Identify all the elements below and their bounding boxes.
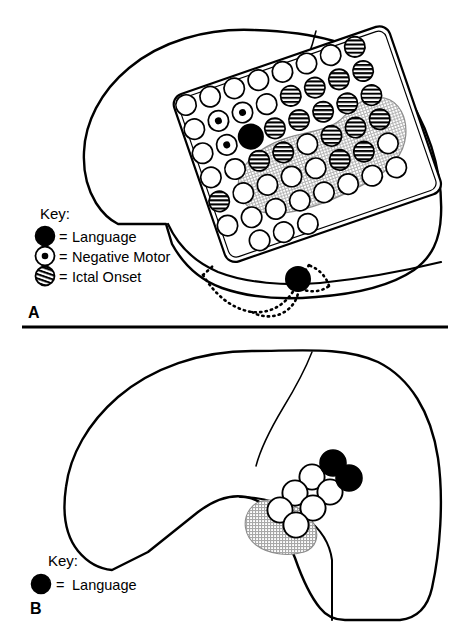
panel-a: Key: = Language = Negative Motor = Ictal… — [28, 23, 444, 321]
key-item-language-label-a: Language — [72, 229, 137, 245]
electrode-plain — [283, 512, 308, 537]
filled-circle-icon — [36, 227, 55, 246]
key-item-ictal-label-a: Ictal Onset — [72, 269, 141, 285]
figure-svg: Key: = Language = Negative Motor = Ictal… — [0, 0, 469, 641]
key-title-a: Key: — [40, 205, 70, 222]
key-item-negmotor-a: = — [59, 249, 67, 265]
key-item-language-a: = — [59, 229, 67, 245]
dot-in-circle-icon — [36, 247, 55, 266]
figure-root: Key: = Language = Negative Motor = Ictal… — [0, 0, 469, 641]
key-item-language-b: = — [56, 577, 64, 593]
filled-circle-icon — [32, 575, 51, 594]
striped-circle-icon — [36, 267, 55, 286]
electrode-language-subtemporal — [286, 267, 310, 291]
key-title-b: Key: — [48, 552, 78, 569]
panel-letter-a: A — [28, 304, 40, 321]
panel-letter-b: B — [30, 600, 42, 617]
key-item-language-label-b: Language — [72, 577, 137, 593]
key-item-negmotor-label-a: Negative Motor — [72, 249, 170, 265]
electrode-language — [336, 465, 362, 491]
key-item-ictal-a: = — [59, 269, 67, 285]
panel-b: Key: = Language B — [30, 350, 441, 620]
